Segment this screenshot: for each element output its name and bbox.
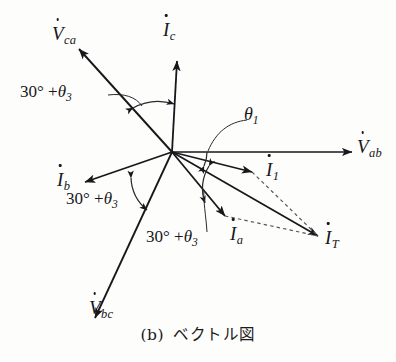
label-v-ab-sub: ab [369, 146, 382, 160]
label-i-c: Ic [163, 20, 175, 39]
label-v-bc-base: V [89, 298, 101, 317]
label-angle-top-left: 30° +θ3 [20, 83, 72, 100]
label-angle-bottom: 30° +θ3 [146, 228, 198, 245]
vector-i-t [172, 152, 318, 236]
vector-v-ca [79, 49, 172, 152]
vector-i-c [172, 61, 177, 152]
phasor-diagram-figure: Vca Ic Vab Ib Vbc Ia I1 IT 30° +θ3 30° +… [0, 0, 396, 362]
vector-i-a [172, 152, 225, 216]
label-angle-mid-left: 30° +θ3 [66, 190, 118, 207]
label-v-bc: Vbc [89, 298, 113, 317]
leader-line-theta-1 [208, 120, 247, 151]
label-i-t: IT [325, 228, 338, 247]
label-theta-1-sub: 1 [253, 114, 259, 126]
label-i-a-base: I [230, 224, 236, 243]
label-i-t-base: I [325, 228, 331, 247]
label-angle-bottom-theta: θ [184, 227, 192, 246]
label-i-t-sub: T [332, 237, 339, 251]
label-angle-mid-left-theta: θ [104, 189, 112, 208]
label-i-1-base: I [266, 160, 272, 179]
label-i-a-sub: a [237, 233, 243, 247]
figure-caption: (b)ベクトル図 [0, 322, 396, 344]
label-v-ca-base: V [52, 24, 64, 43]
label-angle-bottom-sub: 3 [192, 236, 198, 248]
label-v-ca-sub: ca [64, 33, 76, 47]
label-angle-top-left-sub: 3 [66, 91, 72, 103]
label-i-a: Ia [230, 224, 243, 243]
label-i-b: Ib [57, 170, 70, 189]
label-v-ab-base: V [357, 137, 369, 156]
label-theta-1: θ1 [244, 105, 259, 123]
label-v-bc-sub: bc [101, 307, 113, 321]
label-i-1-sub: 1 [273, 169, 279, 183]
label-i-1: I1 [266, 160, 279, 179]
angle-arc-vab-i1 [204, 152, 207, 166]
angle-arc-ib-vbc [131, 178, 147, 210]
vector-i-b [85, 152, 172, 182]
label-angle-top-left-deg: 30° + [20, 82, 58, 101]
leader-line-angle-bottom [204, 190, 207, 232]
label-angle-top-left-theta: θ [58, 82, 66, 101]
label-angle-bottom-deg: 30° + [146, 227, 184, 246]
label-angle-mid-left-deg: 30° + [66, 189, 104, 208]
caption-index: (b) [140, 326, 164, 344]
vector-i-1 [172, 152, 252, 172]
label-i-b-base: I [57, 170, 63, 189]
caption-text: ベクトル図 [173, 326, 256, 344]
label-i-c-sub: c [170, 29, 176, 43]
label-v-ca: Vca [52, 24, 76, 43]
label-angle-mid-left-sub: 3 [112, 198, 118, 210]
label-i-c-base: I [163, 20, 169, 39]
label-v-ab: Vab [357, 137, 382, 156]
label-theta-1-theta: θ [244, 104, 253, 124]
